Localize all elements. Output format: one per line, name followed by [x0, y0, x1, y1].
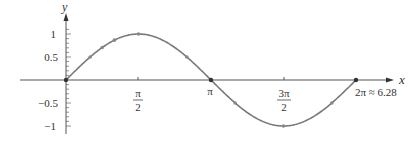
x-axis-arrow-icon [386, 78, 394, 83]
x-tick-label-pi-half-num: π [135, 87, 141, 99]
data-point-marker [354, 78, 358, 82]
data-point-marker [282, 124, 286, 128]
x-tick-label-pi: π [207, 85, 213, 97]
y-tick-label-neg0.5: −0.5 [38, 97, 58, 109]
data-point-marker [330, 101, 334, 105]
y-axis-label: y [61, 0, 68, 14]
data-point-marker [233, 101, 237, 105]
y-tick-label-0.5: 0.5 [44, 51, 58, 63]
y-tick-label-1: 1 [51, 28, 57, 40]
data-point-marker [113, 38, 117, 42]
data-point-marker [185, 55, 189, 59]
x-tick-label-3pi-half-num: 3π [278, 87, 290, 99]
y-tick-label-neg1: −1 [44, 120, 56, 132]
data-point-marker [88, 55, 92, 59]
data-point-marker [64, 78, 68, 82]
x-axis-label: x [398, 72, 405, 87]
x-tick-label-3pi-half-den: 2 [281, 101, 287, 113]
sine-chart: x y 1 0.5 −0.5 −1 π 2 π 3π 2 2π ≈ 6.28 [0, 0, 420, 141]
data-point-marker [100, 46, 104, 50]
x-tick-label-2pi: 2π ≈ 6.28 [355, 86, 397, 98]
data-point-marker [209, 78, 213, 82]
y-axis-arrow-icon [64, 13, 69, 21]
x-tick-label-pi-half-den: 2 [135, 101, 141, 113]
data-point-marker [137, 32, 141, 36]
